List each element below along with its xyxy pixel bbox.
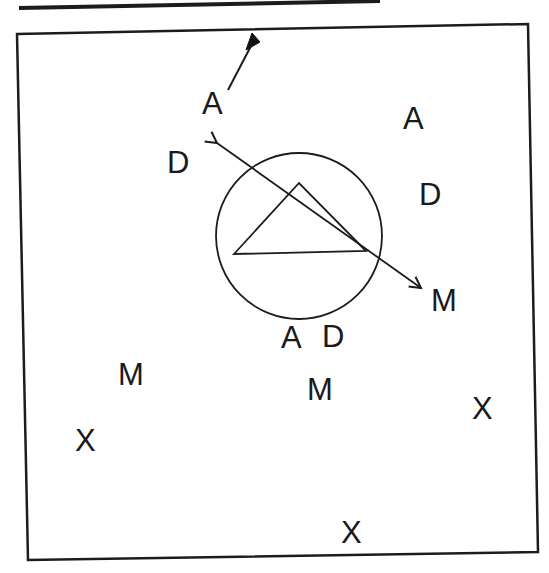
- label-a2: A: [403, 101, 424, 136]
- flag-pole: [228, 46, 251, 90]
- diagram-canvas: AADDMADMMXXX: [0, 0, 549, 573]
- label-m2: M: [118, 357, 144, 392]
- label-a3: A: [281, 320, 302, 355]
- label-m3: M: [307, 372, 333, 407]
- triangle-shape: [234, 183, 366, 254]
- label-m1: M: [431, 283, 457, 318]
- label-d1: D: [167, 145, 189, 180]
- label-d2: D: [419, 177, 441, 212]
- label-x2: X: [75, 423, 96, 458]
- flag-icon: [246, 33, 260, 50]
- diagram-frame: [17, 24, 538, 560]
- double-arrow: [217, 143, 421, 288]
- circle-shape: [216, 153, 382, 319]
- label-d3: D: [322, 319, 344, 354]
- top-rule-line: [19, 1, 380, 8]
- label-x1: X: [472, 391, 493, 426]
- label-a1: A: [202, 86, 223, 121]
- label-x3: X: [341, 515, 362, 550]
